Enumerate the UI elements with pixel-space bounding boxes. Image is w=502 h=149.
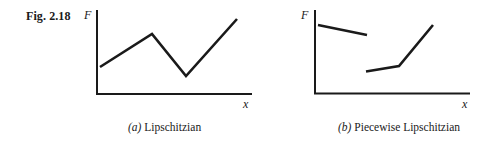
panel-b-plot: F x	[300, 8, 470, 111]
panel-a-x-axis-label: x	[242, 97, 249, 111]
panel-a-function-curve	[100, 19, 237, 76]
panel-a-plot: F x	[83, 8, 252, 111]
panel-a-caption-tag: (a)	[128, 121, 141, 133]
panel-b-function-piece-1	[318, 25, 367, 35]
panel-a-caption-text: Lipschitzian	[144, 121, 201, 133]
panel-b-caption-tag: (b)	[338, 121, 351, 133]
panel-b-function-piece-2	[366, 25, 433, 72]
panel-b-x-axis-label: x	[461, 97, 468, 111]
panel-a-caption: (a) Lipschitzian	[128, 121, 201, 133]
panel-b-y-axis-label: F	[300, 8, 309, 22]
panel-b-caption: (b) Piecewise Lipschitzian	[338, 121, 460, 133]
panel-b-caption-text: Piecewise Lipschitzian	[354, 121, 460, 133]
panel-a-y-axis-label: F	[83, 8, 92, 22]
